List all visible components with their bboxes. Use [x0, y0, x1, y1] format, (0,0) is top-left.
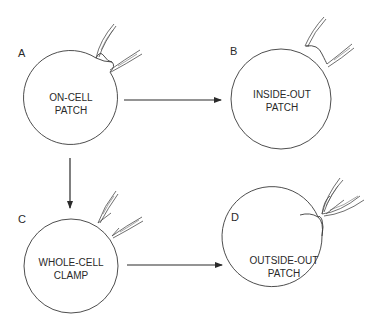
pipette-icon: [112, 217, 143, 238]
cell-label-b: INSIDE-OUT PATCH: [237, 88, 327, 114]
pipette-icon: [96, 24, 116, 58]
cell-label-d-line1: OUTSIDE-OUT: [239, 254, 329, 267]
cell-label-b-line1: INSIDE-OUT: [237, 88, 327, 101]
panel-letter-c: C: [18, 214, 26, 225]
cell-label-d: OUTSIDE-OUT PATCH: [239, 254, 329, 280]
cell-label-b-line2: PATCH: [237, 101, 327, 114]
cell-label-a-line1: ON-CELL: [26, 91, 116, 104]
panel-a-cell: [24, 24, 142, 144]
cell-label-c: WHOLE-CELL CLAMP: [26, 256, 116, 282]
cell-label-c-line2: CLAMP: [26, 269, 116, 282]
pipette-icon: [327, 44, 354, 67]
cell-label-c-line1: WHOLE-CELL: [26, 256, 116, 269]
pipette-icon: [110, 50, 142, 72]
panel-letter-d: D: [231, 212, 239, 223]
panel-letter-b: B: [230, 46, 237, 57]
cell-label-a-line2: PATCH: [26, 104, 116, 117]
cell-label-d-line2: PATCH: [239, 267, 329, 280]
pipette-icon: [305, 17, 326, 46]
pipette-icon: [98, 191, 118, 223]
pipette-icon: [322, 196, 364, 216]
cell-label-a: ON-CELL PATCH: [26, 91, 116, 117]
panel-c-cell: [24, 191, 143, 313]
panel-b-cell: [231, 17, 354, 149]
panel-letter-a: A: [18, 48, 25, 59]
